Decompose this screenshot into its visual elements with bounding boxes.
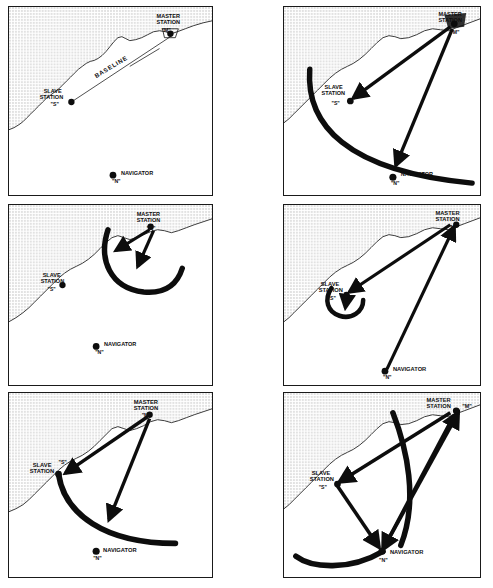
- master-near-wavefront-arc: [105, 230, 183, 293]
- panel-2: MASTER STATION "M" SLAVE STATION "S" NAV…: [283, 6, 481, 196]
- slave-station-label-line2: STATION: [310, 476, 334, 482]
- slave-station-quote: "S": [319, 484, 328, 490]
- slave-station-quote: "S": [48, 287, 57, 292]
- navigator-quote: "N": [379, 557, 388, 563]
- navigator-label: NAVIGATOR: [121, 170, 153, 176]
- slave-station-dot: [55, 471, 62, 478]
- panel-3: MASTER STATION "M" SLAVE STATION "S" NAV…: [8, 204, 213, 386]
- land-mass: [9, 393, 212, 512]
- panel-5: MASTER STATION "M" SLAVE STATION "S" NAV…: [8, 392, 213, 578]
- slave-station-quote: "S": [51, 101, 60, 107]
- arrow-navigator-to-master: [387, 227, 454, 369]
- master-station-quote: "M": [450, 29, 460, 35]
- master-station-dot: [453, 407, 460, 414]
- land-mass: [9, 205, 212, 322]
- slave-station-dot: [343, 292, 349, 298]
- navigator-label: NAVIGATOR: [401, 171, 433, 177]
- navigator-quote: "N": [391, 180, 400, 186]
- slave-station-label-line2: STATION: [30, 468, 54, 474]
- master-station-quote: "M": [462, 403, 472, 409]
- master-station-label-line2: STATION: [435, 216, 459, 222]
- arrow-master-to-navigator: [396, 29, 452, 166]
- master-station-quote: "M": [161, 27, 171, 33]
- navigator-quote: "N": [93, 555, 102, 561]
- slave-station-label-line2: STATION: [41, 278, 64, 284]
- panel-6: MASTER STATION "M" SLAVE STATION "S" NAV…: [283, 392, 481, 578]
- slave-wavefront-arc: [296, 551, 383, 565]
- slave-station-label-line2: STATION: [40, 94, 63, 100]
- slave-wavefront-arc: [59, 474, 176, 543]
- slave-station-dot: [68, 99, 74, 105]
- panel-1: BASELINE MASTER STATION "M" SLAVE STATIO…: [8, 6, 213, 196]
- master-station-label-line2: STATION: [157, 19, 180, 25]
- slave-station-dot: [334, 481, 341, 488]
- slave-station-label-line2: STATION: [322, 90, 345, 96]
- master-station-quote: "M": [147, 226, 156, 231]
- navigator-label: NAVIGATOR: [393, 366, 427, 372]
- navigator-label: NAVIGATOR: [103, 547, 137, 553]
- baseline-line-upper: [130, 49, 160, 67]
- master-station-quote: "M": [142, 413, 151, 418]
- navigator-dot: [378, 548, 385, 555]
- master-station-label-line2: STATION: [438, 17, 461, 23]
- slave-station-quote: "S": [59, 459, 68, 465]
- navigator-label: NAVIGATOR: [104, 341, 136, 347]
- slave-station-dot: [347, 98, 354, 105]
- land-mass: [284, 393, 480, 509]
- slave-station-quote: "S": [328, 295, 337, 301]
- navigator-label: NAVIGATOR: [390, 549, 424, 555]
- navigator-dot: [93, 548, 100, 555]
- slave-station-quote: "S": [332, 100, 341, 106]
- master-station-label-line2: STATION: [134, 405, 158, 411]
- navigator-quote: "N": [112, 178, 121, 184]
- arrow-slave-to-navigator: [337, 486, 379, 547]
- arrow-master-to-sea: [109, 419, 150, 520]
- master-station-label-line2: STATION: [137, 217, 160, 223]
- master-station-label-line2: STATION: [427, 403, 451, 409]
- navigator-quote: "N": [95, 349, 104, 355]
- land-mass: [284, 205, 480, 322]
- navigator-quote: "N": [383, 374, 392, 380]
- master-station-quote: "M": [448, 224, 458, 230]
- slave-station-label-line2: STATION: [319, 287, 343, 293]
- panel-4: MASTER STATION "M" SLAVE STATION "S" NAV…: [283, 204, 481, 386]
- figure-sheet: BASELINE MASTER STATION "M" SLAVE STATIO…: [0, 0, 493, 588]
